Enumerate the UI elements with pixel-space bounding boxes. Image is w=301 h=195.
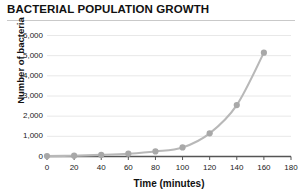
y-tick-label: 3,000 (9, 91, 43, 100)
x-tick-label: 100 (170, 163, 196, 172)
x-tick-label: 40 (88, 163, 114, 172)
series-markers (44, 50, 267, 160)
x-tick-label: 160 (251, 163, 277, 172)
chart-figure: BACTERIAL POPULATION GROWTH Number of ba… (0, 0, 301, 195)
y-tick-label: 4,000 (9, 71, 43, 80)
data-point-marker (152, 148, 158, 154)
y-tick-label: 1,000 (9, 131, 43, 140)
x-tick-label: 140 (224, 163, 250, 172)
data-point-marker (179, 144, 185, 150)
data-point-marker (71, 153, 77, 159)
data-point-marker (44, 153, 50, 159)
y-tick-label: 5,000 (9, 51, 43, 60)
y-tick-label: 2,000 (9, 111, 43, 120)
x-tick-label: 180 (278, 163, 301, 172)
x-tick-label: 120 (197, 163, 223, 172)
x-tick-label: 60 (115, 163, 141, 172)
series-line (47, 53, 264, 156)
data-point-marker (125, 151, 131, 157)
x-tick-label: 20 (61, 163, 87, 172)
gridlines (47, 36, 291, 137)
y-tick-label: 6,000 (9, 31, 43, 40)
data-point-marker (98, 152, 104, 158)
data-point-marker (234, 102, 240, 108)
y-tick-label: 0 (9, 152, 43, 161)
data-point-marker (261, 50, 267, 56)
data-point-marker (207, 130, 213, 136)
x-tick-label: 0 (34, 163, 60, 172)
x-tick-label: 80 (142, 163, 168, 172)
